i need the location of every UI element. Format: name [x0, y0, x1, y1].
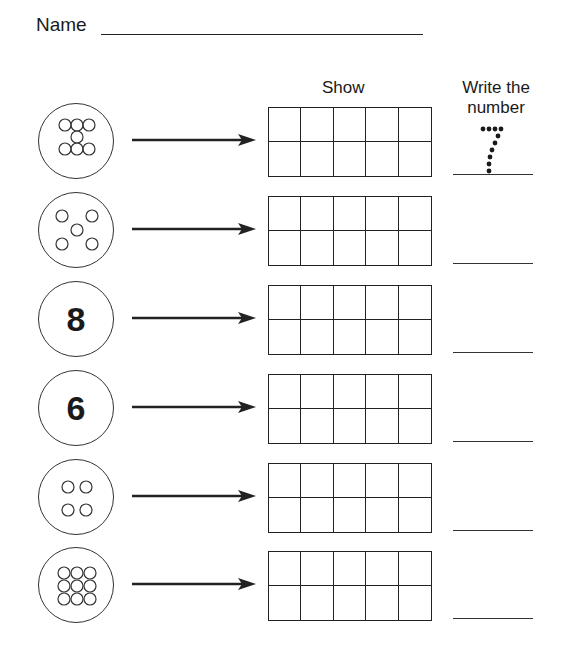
column-header-show: Show [322, 78, 365, 98]
name-label: Name [36, 14, 87, 36]
ten-frame-cell[interactable] [366, 231, 398, 265]
ten-frame-cell[interactable] [269, 409, 301, 443]
ten-frame-cell[interactable] [334, 375, 366, 409]
ten-frame-cell[interactable] [301, 142, 333, 176]
ten-frame-row-3[interactable] [268, 285, 432, 355]
ten-frame-cell[interactable] [366, 498, 398, 532]
ten-frame-cell[interactable] [399, 108, 431, 142]
ten-frame-cell[interactable] [301, 231, 333, 265]
ten-frame-cell[interactable] [269, 108, 301, 142]
ten-frame-cell[interactable] [366, 142, 398, 176]
ten-frame-row-2[interactable] [268, 196, 432, 266]
write-number-line-row-2[interactable] [453, 263, 533, 264]
ten-frame-cell[interactable] [334, 552, 366, 586]
ten-frame-cell[interactable] [399, 320, 431, 354]
ten-frame-cell[interactable] [366, 108, 398, 142]
ten-frame-cell[interactable] [334, 498, 366, 532]
ten-frame-cell[interactable] [399, 197, 431, 231]
ten-frame-cell[interactable] [366, 552, 398, 586]
ten-frame-cell[interactable] [399, 464, 431, 498]
ten-frame-cell[interactable] [334, 286, 366, 320]
numeral-8: 8 [39, 282, 113, 356]
ten-frame-cell[interactable] [334, 464, 366, 498]
ten-frame-cell[interactable] [269, 586, 301, 620]
four-dots-icon [39, 460, 115, 536]
counter-circle-row-6 [38, 547, 114, 623]
traced-seven-icon [470, 124, 510, 180]
ten-frame-row-4[interactable] [268, 374, 432, 444]
ten-frame-cell[interactable] [334, 197, 366, 231]
ten-frame-cell[interactable] [366, 197, 398, 231]
ten-frame-cell[interactable] [301, 320, 333, 354]
ten-frame-cell[interactable] [399, 409, 431, 443]
five-dots-icon [39, 193, 115, 269]
ten-frame-cell[interactable] [334, 142, 366, 176]
arrow-icon [132, 311, 256, 325]
ten-frame-cell[interactable] [366, 586, 398, 620]
ten-frame-cell[interactable] [399, 552, 431, 586]
ten-frame-cell[interactable] [301, 498, 333, 532]
ten-frame-cell[interactable] [269, 498, 301, 532]
write-number-line-row-1[interactable] [453, 174, 533, 175]
write-number-line-row-3[interactable] [453, 352, 533, 353]
header-line-1: Write the [448, 78, 544, 98]
ten-frame-row-6[interactable] [268, 551, 432, 621]
counter-circle-row-3: 8 [38, 281, 114, 357]
numeral-6: 6 [39, 371, 113, 445]
ten-frame-cell[interactable] [301, 586, 333, 620]
ten-frame-cell[interactable] [269, 142, 301, 176]
ten-frame-cell[interactable] [366, 409, 398, 443]
ten-frame-cell[interactable] [301, 197, 333, 231]
ten-frame-cell[interactable] [366, 464, 398, 498]
ten-frame-cell[interactable] [334, 320, 366, 354]
write-number-line-row-4[interactable] [453, 441, 533, 442]
counter-circle-row-5 [38, 459, 114, 535]
ten-frame-cell[interactable] [334, 108, 366, 142]
counter-circle-row-4: 6 [38, 370, 114, 446]
ten-frame-cell[interactable] [334, 409, 366, 443]
ten-frame-cell[interactable] [301, 375, 333, 409]
arrow-icon [132, 133, 256, 147]
ten-frame-cell[interactable] [334, 231, 366, 265]
ten-frame-cell[interactable] [399, 586, 431, 620]
name-field-line[interactable] [101, 34, 423, 35]
ten-frame-cell[interactable] [334, 586, 366, 620]
arrow-icon [132, 222, 256, 236]
seven-dots-icon [39, 104, 115, 180]
ten-frame-cell[interactable] [399, 498, 431, 532]
ten-frame-cell[interactable] [301, 552, 333, 586]
write-number-line-row-6[interactable] [453, 618, 533, 619]
ten-frame-cell[interactable] [301, 409, 333, 443]
ten-frame-cell[interactable] [269, 197, 301, 231]
ten-frame-cell[interactable] [399, 142, 431, 176]
counter-circle-row-2 [38, 192, 114, 268]
ten-frame-cell[interactable] [399, 286, 431, 320]
ten-frame-row-5[interactable] [268, 463, 432, 533]
nine-dots-icon [39, 548, 115, 624]
column-header-write-number: Write the number [448, 78, 544, 118]
ten-frame-cell[interactable] [301, 286, 333, 320]
ten-frame-cell[interactable] [269, 320, 301, 354]
counter-circle-row-1 [38, 103, 114, 179]
ten-frame-cell[interactable] [301, 464, 333, 498]
ten-frame-cell[interactable] [269, 375, 301, 409]
ten-frame-cell[interactable] [366, 286, 398, 320]
write-number-line-row-5[interactable] [453, 530, 533, 531]
ten-frame-cell[interactable] [301, 108, 333, 142]
ten-frame-cell[interactable] [366, 375, 398, 409]
header-line-2: number [448, 98, 544, 118]
ten-frame-cell[interactable] [269, 464, 301, 498]
ten-frame-cell[interactable] [269, 286, 301, 320]
arrow-icon [132, 400, 256, 414]
arrow-icon [132, 489, 256, 503]
ten-frame-cell[interactable] [366, 320, 398, 354]
arrow-icon [132, 577, 256, 591]
ten-frame-cell[interactable] [399, 375, 431, 409]
ten-frame-cell[interactable] [269, 231, 301, 265]
ten-frame-cell[interactable] [269, 552, 301, 586]
ten-frame-cell[interactable] [399, 231, 431, 265]
ten-frame-row-1[interactable] [268, 107, 432, 177]
